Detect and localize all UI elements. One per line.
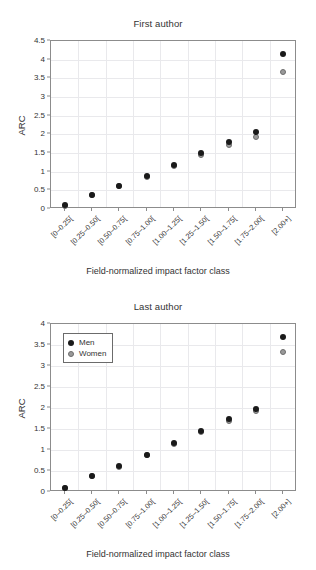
chart-title-first-author: First author — [0, 18, 316, 29]
x-axis-tick-mark — [91, 491, 92, 494]
data-point-men — [198, 428, 204, 434]
legend-dot-men-icon — [68, 340, 74, 346]
y-axis-tick-mark — [47, 365, 50, 366]
data-point-women — [253, 134, 259, 140]
y-axis-tick-label: 1 — [41, 445, 45, 454]
data-point-men — [89, 473, 95, 479]
x-axis-tick-mark — [118, 491, 119, 494]
data-point-men — [226, 416, 232, 422]
y-axis-tick-label: 0.5 — [34, 185, 45, 194]
data-point-men — [198, 150, 204, 156]
y-axis-tick-mark — [47, 470, 50, 471]
y-axis-tick-mark — [47, 96, 50, 97]
y-axis-tick-label: 1 — [41, 166, 45, 175]
data-point-men — [171, 162, 177, 168]
x-axis-tick-label: [1.50–1.75[ — [205, 214, 238, 247]
data-point-men — [253, 406, 259, 412]
y-axis-tick-mark — [47, 407, 50, 408]
legend-label-women: Women — [79, 348, 106, 359]
data-point-women — [280, 69, 286, 75]
y-axis-tick-mark — [47, 58, 50, 59]
y-axis-tick-mark — [47, 152, 50, 153]
data-point-men — [280, 334, 286, 340]
y-axis-tick-label: 3.5 — [34, 73, 45, 82]
y-axis-tick-mark — [47, 77, 50, 78]
x-axis-tick-mark — [255, 208, 256, 211]
plot-area-last-author: Men Women — [50, 323, 296, 491]
y-axis-tick-mark — [47, 114, 50, 115]
y-axis-tick-label: 2.5 — [34, 382, 45, 391]
x-axis-tick-label: [2.00+] — [270, 214, 292, 236]
legend-entry-women: Women — [68, 348, 106, 359]
x-axis-tick-mark — [228, 208, 229, 211]
y-axis-tick-label: 2 — [41, 403, 45, 412]
y-axis-tick-label: 4 — [41, 54, 45, 63]
data-point-men — [280, 51, 286, 57]
y-axis-tick-mark — [47, 323, 50, 324]
y-axis-tick-label: 0 — [41, 487, 45, 496]
data-point-men — [116, 183, 122, 189]
y-axis-tick-label: 3 — [41, 92, 45, 101]
legend-label-men: Men — [79, 337, 95, 348]
x-axis-tick-mark — [146, 208, 147, 211]
x-axis-tick-mark — [91, 208, 92, 211]
chart-title-last-author: Last author — [0, 301, 316, 312]
data-point-men — [171, 440, 177, 446]
x-axis-tick-label: [0.75–1.00[ — [123, 214, 156, 247]
y-axis-tick-label: 4.5 — [34, 36, 45, 45]
y-axis-tick-mark — [47, 170, 50, 171]
x-axis-title-first-author: Field-normalized impact factor class — [0, 266, 316, 276]
y-axis-title-first-author: ARC — [16, 96, 27, 156]
data-points-first-author — [51, 41, 295, 207]
y-axis-tick-mark — [47, 189, 50, 190]
x-axis-tick-mark — [255, 491, 256, 494]
y-axis-title-last-author: ARC — [16, 379, 27, 439]
x-axis-tick-label: [0.50–0.75[ — [96, 214, 129, 247]
x-axis-tick-label: [0.75–1.00[ — [123, 497, 156, 530]
legend: Men Women — [63, 333, 113, 363]
data-point-women — [280, 349, 286, 355]
data-point-men — [144, 452, 150, 458]
data-point-men — [62, 202, 68, 208]
y-axis-tick-label: 1.5 — [34, 424, 45, 433]
data-point-men — [226, 139, 232, 145]
y-axis-tick-mark — [47, 344, 50, 345]
x-axis-tick-mark — [146, 491, 147, 494]
x-axis-title-last-author: Field-normalized impact factor class — [0, 549, 316, 559]
x-axis-tick-mark — [118, 208, 119, 211]
plot-area-first-author — [50, 40, 296, 208]
legend-dot-women-icon — [68, 351, 74, 357]
x-axis-tick-mark — [64, 491, 65, 494]
y-axis-tick-mark — [47, 386, 50, 387]
x-axis-tick-label: [0.50–0.75[ — [96, 497, 129, 530]
y-axis-tick-label: 0.5 — [34, 466, 45, 475]
data-point-men — [62, 485, 68, 491]
x-axis-tick-label: [0–0.25[ — [49, 214, 74, 239]
y-axis-tick-label: 1.5 — [34, 148, 45, 157]
y-axis-tick-mark — [47, 133, 50, 134]
data-point-men — [89, 192, 95, 198]
y-axis-tick-mark — [47, 40, 50, 41]
x-axis-tick-label: [1.25–1.50[ — [178, 214, 211, 247]
y-axis-tick-label: 4 — [41, 319, 45, 328]
x-axis-tick-mark — [173, 208, 174, 211]
y-axis-tick-label: 3.5 — [34, 340, 45, 349]
x-axis-tick-mark — [200, 491, 201, 494]
x-axis-tick-mark — [173, 491, 174, 494]
x-axis-tick-mark — [200, 208, 201, 211]
y-axis-tick-label: 2 — [41, 129, 45, 138]
x-axis-tick-mark — [228, 491, 229, 494]
y-axis-tick-mark — [47, 428, 50, 429]
y-axis-tick-mark — [47, 208, 50, 209]
scatter-figure: First author ARC 00.511.522.533.544.5 [0… — [0, 0, 316, 570]
x-axis-tick-label: [0–0.25[ — [49, 497, 74, 522]
data-point-men — [144, 173, 150, 179]
y-axis-tick-label: 0 — [41, 204, 45, 213]
y-axis-tick-label: 3 — [41, 361, 45, 370]
data-point-men — [253, 129, 259, 135]
x-axis-tick-label: [1.50–1.75[ — [205, 497, 238, 530]
x-axis-tick-mark — [282, 208, 283, 211]
x-axis-tick-label: [1.25–1.50[ — [178, 497, 211, 530]
y-axis-tick-label: 2.5 — [34, 110, 45, 119]
chart-panel-last-author: Last author ARC Men Women 00.511.522.533… — [0, 285, 316, 570]
